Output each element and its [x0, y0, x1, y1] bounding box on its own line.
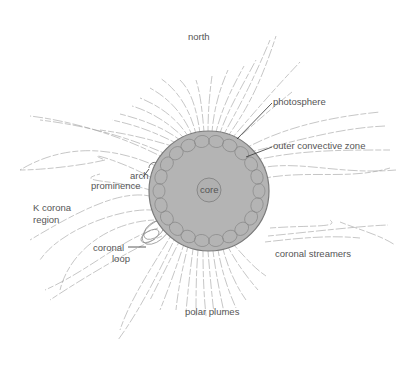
label-coronal-streamers: coronal streamers [275, 248, 351, 259]
label-prominence: prominence [91, 180, 141, 191]
label-polar-plumes: polar plumes [185, 306, 239, 317]
label-photosphere: photosphere [273, 96, 326, 107]
label-k-corona-line1: K corona [33, 202, 71, 213]
label-outer-convective-zone: outer convective zone [273, 140, 365, 151]
label-k-corona-line2: region [33, 214, 59, 225]
label-north: north [188, 31, 210, 42]
sun-structure-diagram: north photosphere outer convective zone … [0, 0, 417, 366]
label-coronal-loop-line2: loop [112, 253, 130, 264]
label-coronal-loop-line1: coronal [93, 242, 124, 253]
label-core: core [200, 184, 218, 195]
